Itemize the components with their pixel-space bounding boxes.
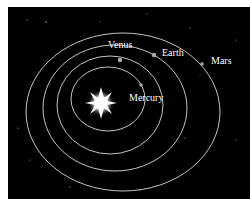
earth-label: Earth [162, 47, 184, 58]
venus-planet [118, 58, 122, 62]
venus-label: Venus [108, 39, 133, 50]
mars-planet [200, 62, 203, 65]
mercury-label: Mercury [129, 92, 163, 103]
mars-label: Mars [211, 55, 232, 66]
sun-icon [85, 87, 117, 119]
earth-planet [152, 53, 156, 57]
mercury-planet [139, 83, 143, 87]
orbit-diagram: Venus Earth Mars Mercury [0, 0, 250, 199]
earth-orbit [43, 45, 187, 171]
mars-orbit [26, 33, 220, 191]
